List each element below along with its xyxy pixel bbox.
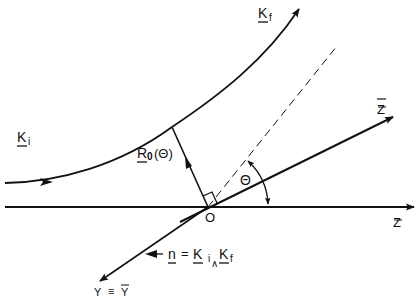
svg-text:Z: Z	[377, 102, 385, 117]
label-normal-vector: n = K i ∧ K f	[145, 246, 233, 269]
svg-text:i: i	[208, 253, 210, 264]
svg-text:K: K	[219, 246, 229, 262]
svg-text:Y: Y	[94, 286, 102, 298]
svg-text:Y: Y	[121, 286, 129, 298]
svg-text:R: R	[137, 145, 147, 161]
label-r0-theta: R 0 (Θ)	[137, 145, 173, 162]
svg-text:i: i	[28, 136, 30, 147]
svg-text:≡: ≡	[108, 285, 114, 297]
svg-text:=: =	[181, 246, 189, 261]
label-y-equiv-y-bar: Y ≡ Y	[94, 285, 129, 298]
svg-text:Z: Z	[393, 215, 401, 230]
svg-text:K: K	[193, 246, 203, 262]
y-axis	[100, 207, 208, 281]
svg-text:K: K	[17, 129, 27, 145]
svg-text:f: f	[269, 12, 272, 23]
label-k-f: K f	[258, 5, 272, 23]
label-z: Z	[393, 215, 402, 230]
svg-text:f: f	[230, 253, 233, 264]
scattering-geometry-diagram: K f K i R 0 (Θ) Θ O Z Z Y ≡ Y n = K i	[0, 0, 420, 299]
dashed-asymptote	[208, 46, 337, 207]
label-origin: O	[205, 210, 215, 225]
r0-arrowhead	[185, 156, 192, 169]
svg-text:K: K	[258, 5, 268, 21]
label-z-bar: Z	[377, 99, 386, 117]
svg-text:0: 0	[147, 151, 153, 162]
label-theta: Θ	[240, 172, 251, 188]
svg-text:∧: ∧	[211, 258, 218, 269]
svg-text:n: n	[168, 246, 176, 262]
svg-text:(Θ): (Θ)	[154, 146, 173, 161]
label-k-i: K i	[17, 129, 30, 147]
